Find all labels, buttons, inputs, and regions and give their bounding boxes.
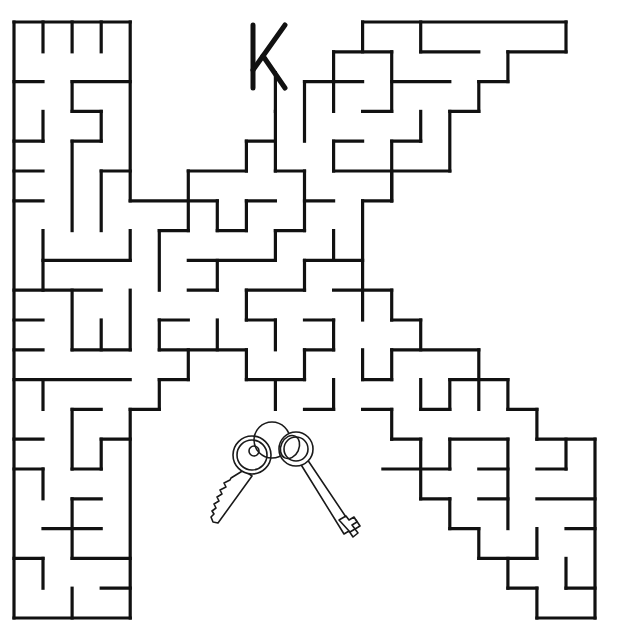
keys-icon[interactable]	[211, 422, 360, 537]
left-key	[211, 436, 271, 523]
maze-walls	[14, 22, 595, 618]
letter-k-label	[253, 25, 285, 88]
right-key	[277, 432, 360, 537]
maze-board[interactable]	[0, 0, 626, 635]
